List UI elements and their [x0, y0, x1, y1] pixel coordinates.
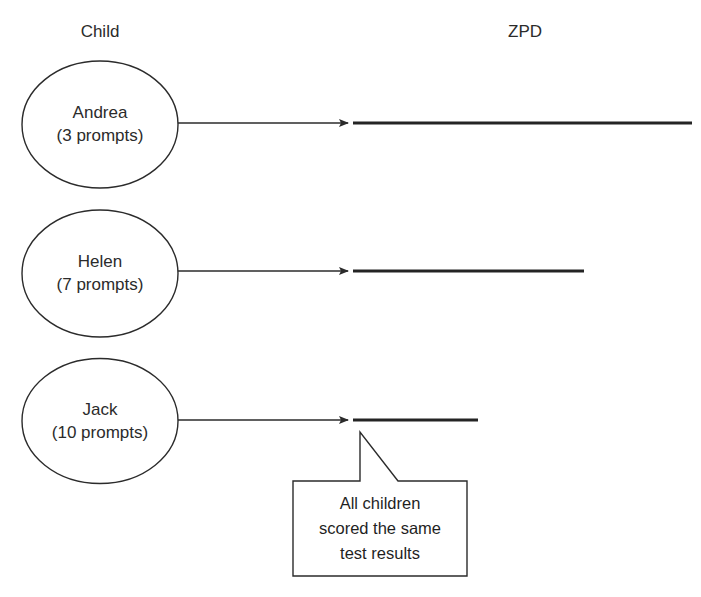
- node-label-helen: Helen (7 prompts): [57, 250, 144, 296]
- zpd-diagram: Child ZPD Andrea (3 prompts) Helen (7 pr…: [0, 0, 701, 597]
- column-header-child: Child: [81, 22, 120, 42]
- callout-line-3: test results: [294, 541, 466, 566]
- node-prompts-helen: (7 prompts): [57, 273, 144, 296]
- callout-line-2: scored the same: [294, 516, 466, 541]
- callout-line-1: All children: [294, 491, 466, 516]
- node-prompts-andrea: (3 prompts): [57, 124, 144, 147]
- callout-annotation-text: All children scored the same test result…: [294, 491, 466, 566]
- column-header-zpd: ZPD: [508, 22, 542, 42]
- node-name-helen: Helen: [57, 250, 144, 273]
- node-label-jack: Jack (10 prompts): [52, 398, 148, 444]
- node-label-andrea: Andrea (3 prompts): [57, 101, 144, 147]
- node-name-andrea: Andrea: [57, 101, 144, 124]
- node-name-jack: Jack: [52, 398, 148, 421]
- node-prompts-jack: (10 prompts): [52, 421, 148, 444]
